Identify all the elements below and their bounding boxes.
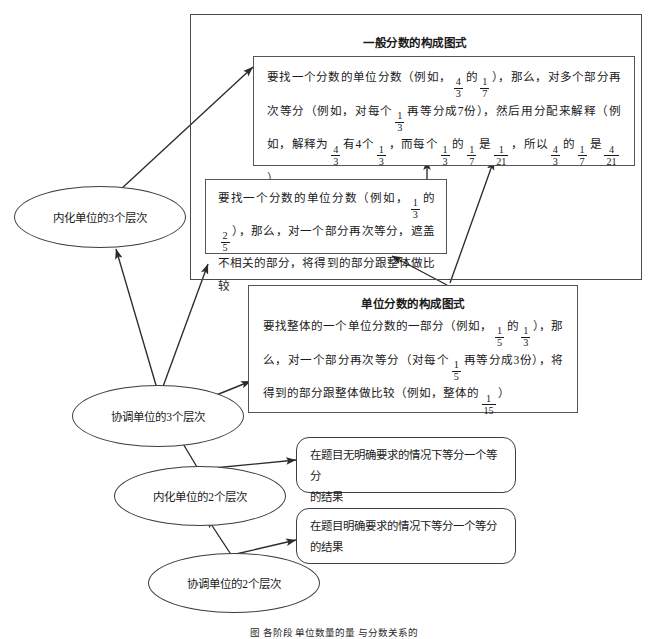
frac-1-3-d: 13 — [411, 198, 420, 220]
frac-1-3-c: 13 — [441, 145, 450, 167]
frac-2-5: 25 — [221, 231, 230, 253]
gfb-l3e: ，所以 — [511, 138, 548, 151]
frac-1-3-a: 13 — [395, 111, 404, 133]
gfb-l3g: 是 — [589, 138, 602, 151]
gfb-l1a: 要找一个分数的单位分数（例如， — [267, 71, 451, 84]
gfb-l3b: ，而每个 — [388, 138, 438, 151]
gfb-l3a: 4个 — [356, 138, 375, 151]
frac-1-15: 115 — [482, 394, 496, 416]
frac-1-5: 15 — [495, 326, 504, 348]
frac-1-21: 121 — [494, 145, 508, 167]
gfb-l2a: （例如，对每个 — [305, 105, 393, 118]
ufsb-l1b: 的 — [422, 192, 435, 205]
node-coordinate-3-levels[interactable]: 协调单位的3个层次 — [72, 385, 244, 447]
gfb-l2c: 有 — [343, 138, 356, 151]
gfb-l1b: 的 — [465, 71, 478, 84]
ufb-l2a: 对一个部分再次等分（对每个 — [288, 354, 449, 367]
figure-caption: 图 各阶段 单位数量的量 与分数关系的 — [0, 625, 668, 639]
ufb-l3b: ） — [498, 387, 510, 400]
ufb-l3a: 分跟整体做比较（例如，整体的 — [311, 387, 479, 400]
general-fraction-text-box: 要找一个分数的单位分数（例如，43的17），那么，对多个部分再次等分（例如，对每… — [253, 56, 635, 166]
node-implicit-equal-partition-result[interactable]: 在题目无明确要求的情况下等分一个等分 的结果 — [296, 437, 516, 493]
frac-4-21: 421 — [604, 145, 618, 167]
ufsb-l1a: 要找一个分数的单位分数（例如， — [218, 192, 408, 205]
frac-4-3-b: 43 — [331, 145, 340, 167]
implicit-result-line1: 在题目无明确要求的情况下等分一个等分 — [310, 445, 504, 487]
unit-fraction-small-box: 要找一个分数的单位分数（例如，13的25），那么，对一个部分再次等分，遮盖不相关… — [205, 179, 447, 254]
node-coordinate-2-levels[interactable]: 协调单位的2个层次 — [148, 553, 320, 613]
ufb-l1b: 的 — [507, 320, 519, 333]
node-internalize-2-levels[interactable]: 内化单位的2个层次 — [114, 466, 286, 526]
explicit-result-line2: 的结果 — [310, 537, 504, 558]
ufsb-l1c: ），那么，对 — [232, 225, 300, 238]
frac-1-5-b: 15 — [452, 360, 461, 382]
gfb-l3c: 的 — [452, 138, 465, 151]
node-internalize-3-levels[interactable]: 内化单位的3个层次 — [14, 186, 186, 248]
node-explicit-equal-partition-result[interactable]: 在题目明确要求的情况下等分一个等分 的结果 — [296, 508, 516, 564]
general-fraction-panel-title: 一般分数的构成图式 — [190, 34, 640, 50]
arrow-coordinate2-to-explicit — [236, 540, 296, 554]
unit-fraction-panel-title: 单位分数的构成图式 — [263, 295, 563, 311]
gfb-l3f: 的 — [562, 138, 575, 151]
unit-fraction-small-text: 要找一个分数的单位分数（例如，13的25），那么，对一个部分再次等分，遮盖不相关… — [218, 188, 435, 299]
frac-4-3: 43 — [454, 77, 463, 99]
arrow-coordinate3-to-internalize3 — [116, 249, 158, 392]
ufb-l1a: 要找整体的一个单位分数的一部分（例如， — [263, 320, 492, 333]
frac-1-3-b: 13 — [377, 145, 386, 167]
explicit-result-line1: 在题目明确要求的情况下等分一个等分 — [310, 516, 504, 537]
frac-1-3-e: 13 — [521, 326, 530, 348]
frac-1-7-b: 17 — [467, 145, 476, 167]
general-fraction-text: 要找一个分数的单位分数（例如，43的17），那么，对多个部分再次等分（例如，对每… — [267, 66, 621, 191]
frac-1-7-c: 17 — [578, 145, 587, 167]
implicit-result-line2: 的结果 — [310, 487, 504, 508]
unit-fraction-panel: 单位分数的构成图式 要找整体的一个单位分数的一部分（例如，15的13），那么，对… — [248, 285, 578, 413]
frac-4-3-c: 43 — [551, 145, 560, 167]
arrow-coordinate3-to-smallbox — [161, 264, 208, 392]
frac-1-7: 17 — [480, 77, 489, 99]
gfb-l3d: 是 — [479, 138, 492, 151]
unit-fraction-text: 要找整体的一个单位分数的一部分（例如，15的13），那么，对一个部分再次等分（对… — [263, 315, 563, 416]
